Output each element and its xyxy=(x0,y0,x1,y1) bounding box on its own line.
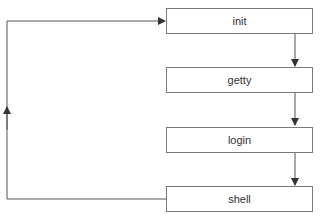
node-getty: getty xyxy=(166,67,313,93)
node-label: login xyxy=(228,134,251,146)
node-label: init xyxy=(232,15,246,27)
node-init: init xyxy=(166,8,313,34)
node-label: shell xyxy=(228,193,251,205)
node-label: getty xyxy=(228,74,252,86)
node-login: login xyxy=(166,127,313,153)
process-flow-diagram: init getty login shell xyxy=(0,0,324,220)
arrow-shell-to-init-loop xyxy=(7,21,166,199)
node-shell: shell xyxy=(166,186,313,212)
